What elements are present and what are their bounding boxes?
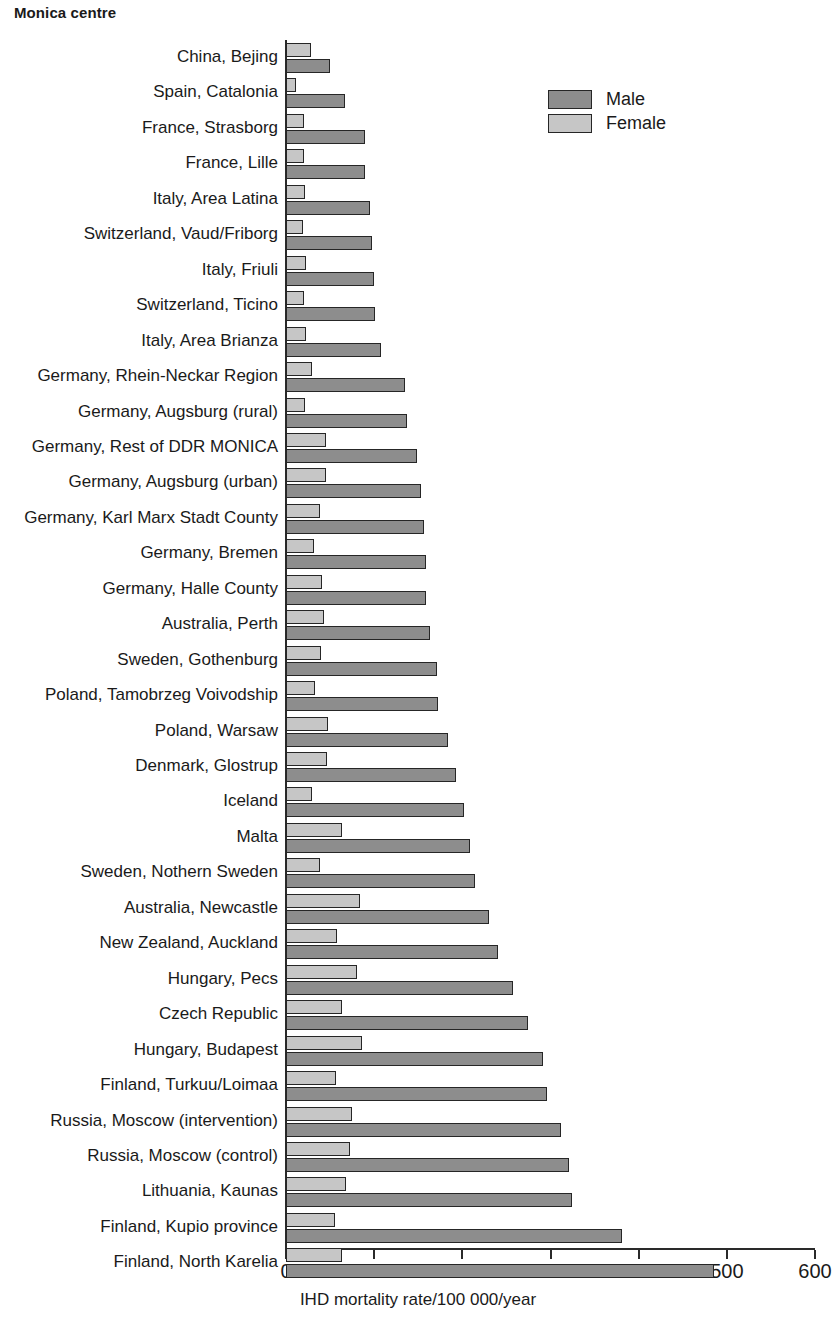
bar-row: Russia, Moscow (intervention) bbox=[0, 1105, 836, 1140]
bar-row: Switzerland, Vaud/Friborg bbox=[0, 218, 836, 253]
category-label: Spain, Catalonia bbox=[153, 82, 278, 102]
category-label: France, Strasborg bbox=[142, 118, 278, 138]
bar-male bbox=[286, 1193, 572, 1207]
bar-male bbox=[286, 803, 464, 817]
bar-male bbox=[286, 343, 381, 357]
category-label: Italy, Area Latina bbox=[153, 189, 278, 209]
category-label: France, Lille bbox=[185, 153, 278, 173]
bar-male bbox=[286, 1264, 714, 1278]
bar-female bbox=[286, 965, 357, 979]
bar-male bbox=[286, 733, 448, 747]
bar-female bbox=[286, 1177, 346, 1191]
bar-row: Denmark, Glostrup bbox=[0, 750, 836, 785]
category-label: Hungary, Pecs bbox=[168, 969, 278, 989]
bar-row: Germany, Halle County bbox=[0, 573, 836, 608]
bar-row: China, Bejing bbox=[0, 41, 836, 76]
category-label: Germany, Halle County bbox=[103, 579, 278, 599]
bar-male bbox=[286, 94, 345, 108]
bar-row: France, Strasborg bbox=[0, 112, 836, 147]
bar-female bbox=[286, 1000, 342, 1014]
bar-row: Finland, Turkuu/Loimaa bbox=[0, 1069, 836, 1104]
bar-male bbox=[286, 1016, 528, 1030]
bar-male bbox=[286, 130, 365, 144]
bar-female bbox=[286, 43, 311, 57]
category-label: Germany, Karl Marx Stadt County bbox=[24, 508, 278, 528]
legend-swatch-male bbox=[548, 90, 592, 109]
category-label: Germany, Augsburg (rural) bbox=[78, 402, 278, 422]
category-label: Hungary, Budapest bbox=[134, 1040, 278, 1060]
category-label: Poland, Tamobrzeg Voivodship bbox=[45, 685, 278, 705]
bar-row: Russia, Moscow (control) bbox=[0, 1140, 836, 1175]
bar-row: Australia, Newcastle bbox=[0, 892, 836, 927]
plot-area: 0100200300400500600 China, BejingSpain, … bbox=[0, 0, 836, 1322]
category-label: China, Bejing bbox=[177, 47, 278, 67]
bar-female bbox=[286, 894, 360, 908]
bar-female bbox=[286, 1248, 342, 1262]
bar-female bbox=[286, 468, 326, 482]
bar-row: Poland, Warsaw bbox=[0, 715, 836, 750]
bar-row: Germany, Bremen bbox=[0, 537, 836, 572]
bar-row: Germany, Karl Marx Stadt County bbox=[0, 502, 836, 537]
category-label: Iceland bbox=[223, 791, 278, 811]
bar-female bbox=[286, 646, 321, 660]
bar-female bbox=[286, 1071, 336, 1085]
bar-male bbox=[286, 414, 407, 428]
bar-row: Lithuania, Kaunas bbox=[0, 1175, 836, 1210]
bar-female bbox=[286, 929, 337, 943]
bar-male bbox=[286, 697, 438, 711]
bar-male bbox=[286, 874, 475, 888]
bar-row: Finland, North Karelia bbox=[0, 1246, 836, 1281]
bar-male bbox=[286, 1052, 543, 1066]
bar-female bbox=[286, 398, 305, 412]
bar-row: Sweden, Gothenburg bbox=[0, 644, 836, 679]
bar-male bbox=[286, 378, 405, 392]
bar-row: New Zealand, Auckland bbox=[0, 927, 836, 962]
bar-row: Hungary, Pecs bbox=[0, 963, 836, 998]
bar-male bbox=[286, 768, 456, 782]
bar-female bbox=[286, 256, 306, 270]
category-label: Switzerland, Ticino bbox=[136, 295, 278, 315]
category-label: Poland, Warsaw bbox=[155, 721, 278, 741]
category-label: Italy, Friuli bbox=[202, 260, 278, 280]
bar-male bbox=[286, 1158, 569, 1172]
category-label: Denmark, Glostrup bbox=[135, 756, 278, 776]
category-label: Russia, Moscow (intervention) bbox=[50, 1111, 278, 1131]
bar-female bbox=[286, 114, 304, 128]
bar-row: Germany, Rhein-Neckar Region bbox=[0, 360, 836, 395]
bar-male bbox=[286, 555, 426, 569]
bar-row: Finland, Kupio province bbox=[0, 1211, 836, 1246]
bar-male bbox=[286, 1229, 622, 1243]
bar-male bbox=[286, 945, 498, 959]
bar-female bbox=[286, 1036, 362, 1050]
bar-female bbox=[286, 78, 296, 92]
bar-female bbox=[286, 291, 304, 305]
bar-row: Germany, Augsburg (urban) bbox=[0, 466, 836, 501]
bar-female bbox=[286, 1213, 335, 1227]
bar-female bbox=[286, 787, 312, 801]
bar-row: Malta bbox=[0, 821, 836, 856]
legend-label-male: Male bbox=[606, 88, 645, 111]
bar-female bbox=[286, 858, 320, 872]
category-label: New Zealand, Auckland bbox=[99, 933, 278, 953]
category-label: Australia, Perth bbox=[162, 614, 278, 634]
bar-female bbox=[286, 823, 342, 837]
bar-male bbox=[286, 591, 426, 605]
bar-male bbox=[286, 981, 513, 995]
bar-row: Hungary, Budapest bbox=[0, 1034, 836, 1069]
bar-row: Poland, Tamobrzeg Voivodship bbox=[0, 679, 836, 714]
bar-row: Italy, Friuli bbox=[0, 254, 836, 289]
bar-male bbox=[286, 484, 421, 498]
bar-male bbox=[286, 839, 470, 853]
bar-female bbox=[286, 717, 328, 731]
bar-female bbox=[286, 327, 306, 341]
bar-female bbox=[286, 220, 303, 234]
bar-row: Switzerland, Ticino bbox=[0, 289, 836, 324]
legend-label-female: Female bbox=[606, 112, 666, 135]
bar-male bbox=[286, 236, 372, 250]
bar-female bbox=[286, 610, 324, 624]
bar-male bbox=[286, 307, 375, 321]
bar-row: Iceland bbox=[0, 785, 836, 820]
bar-male bbox=[286, 272, 374, 286]
bar-female bbox=[286, 575, 322, 589]
category-label: Germany, Rhein-Neckar Region bbox=[37, 366, 278, 386]
